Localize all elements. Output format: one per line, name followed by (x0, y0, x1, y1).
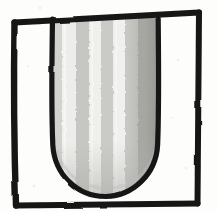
sketch-canvas: Hand-drawn U-shaped vessel sketch ink ou… (0, 0, 217, 212)
sketch-illustration (0, 0, 217, 212)
speckle (177, 59, 180, 62)
speckle (185, 167, 188, 170)
frame-right-edge (198, 13, 200, 204)
frame-bottom-edge (16, 204, 198, 206)
speckle (27, 65, 29, 67)
speckle (39, 7, 42, 10)
speckle (32, 184, 35, 187)
frame-left-edge (14, 23, 16, 206)
speckle (171, 117, 173, 119)
